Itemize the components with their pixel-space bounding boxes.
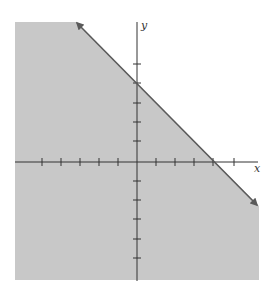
x-axis-label: x — [254, 162, 261, 175]
inequality-graph: y x — [0, 0, 274, 293]
y-axis-label: y — [140, 19, 148, 32]
